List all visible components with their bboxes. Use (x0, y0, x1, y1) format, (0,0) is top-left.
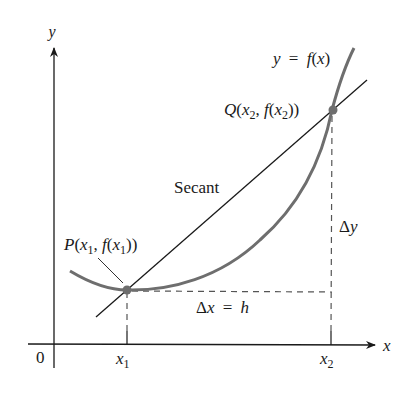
x-axis (28, 344, 375, 345)
origin-label: 0 (36, 348, 45, 367)
dashed-q-vertical (331, 116, 332, 331)
point-q (329, 106, 338, 115)
point-p (123, 286, 132, 295)
x2-label: x2 (319, 349, 334, 371)
delta-x-label: Δx = h (196, 298, 249, 317)
secant-label: Secant (174, 178, 220, 197)
delta-y-label: Δy (339, 217, 358, 236)
point-p-label: P(x1, f(x1)) (63, 235, 137, 257)
secant-diagram: y x 0 y = f(x) Q(x2, f(x2)) Secant P(x1,… (0, 0, 403, 398)
curve-label: y = f(x) (271, 49, 330, 68)
p-leader-line (98, 258, 123, 283)
point-q-label: Q(x2, f(x2)) (224, 100, 299, 122)
y-axis-label: y (46, 23, 56, 41)
dashed-horizontal-delta-x (132, 291, 332, 292)
x1-label: x1 (115, 349, 130, 371)
x-axis-label: x (382, 336, 391, 355)
